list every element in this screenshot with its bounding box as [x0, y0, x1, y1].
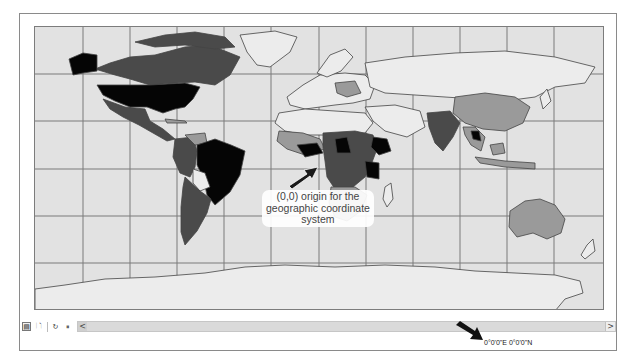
origin-callout-label: (0,0) origin for the geographic coordina…	[262, 190, 374, 227]
horizontal-scrollbar[interactable]: < >	[77, 321, 616, 332]
layout-view-icon[interactable]: 🗋	[34, 322, 43, 331]
status-arrow-icon	[455, 320, 485, 342]
scroll-right-button[interactable]: >	[605, 322, 615, 331]
origin-arrow-icon	[287, 164, 321, 190]
data-view-icon[interactable]: ▤	[22, 322, 31, 331]
toolbar-divider	[47, 322, 48, 332]
pause-icon[interactable]: ⏸	[63, 322, 72, 331]
callout-line-1: (0,0) origin for the	[262, 191, 374, 203]
coordinate-readout: 0°0'0"E 0°0'0"N	[484, 339, 532, 346]
callout-line-3: system	[262, 214, 374, 226]
refresh-icon[interactable]: ↻	[51, 322, 60, 331]
scroll-left-button[interactable]: <	[78, 322, 87, 331]
